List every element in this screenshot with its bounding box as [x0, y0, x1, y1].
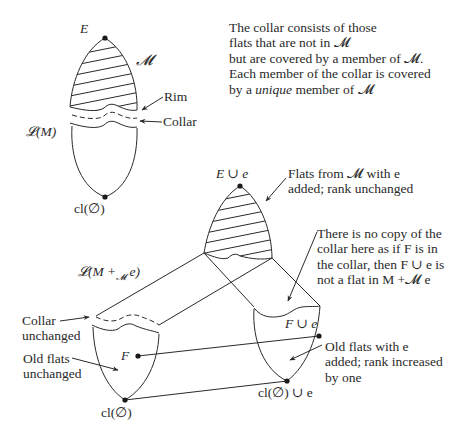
note-line: Flats from 𝓜 with e	[288, 166, 413, 181]
label-modular-cut: 𝓜	[136, 52, 153, 68]
label-E-union-e: E ∪ e	[216, 166, 248, 182]
point-F	[135, 353, 140, 358]
lattice-ext-end: e)	[126, 264, 140, 279]
note-line: unchanged	[23, 366, 81, 381]
note-line: the collar, then F ∪ e is	[317, 257, 444, 272]
lattice-ext-text: 𝓛(M +	[78, 264, 116, 279]
label-cl-empty-top: cl(∅)	[74, 201, 105, 217]
connector	[204, 253, 254, 307]
label-F: F	[121, 348, 129, 364]
label-cl-empty: cl(∅)	[101, 405, 132, 421]
explanation-line: but are covered by a member of 𝓜.	[229, 51, 431, 66]
label-lattice-M: 𝓛(M)	[26, 124, 56, 140]
note-line: added; rank unchanged	[288, 181, 413, 196]
old-flats-with-e-note: Old flats with e added; rank increased b…	[325, 339, 443, 385]
label-cl-empty-union-e: cl(∅) ∪ e	[258, 385, 313, 401]
point-E	[102, 35, 107, 40]
note-line: Collar	[22, 313, 80, 328]
flats-from-m-note: Flats from 𝓜 with e added; rank unchange…	[288, 166, 413, 197]
old-flats-unchanged-note: Old flats unchanged	[23, 351, 81, 382]
rim-arrow	[142, 97, 163, 110]
explanation-line: by a unique member of 𝓜	[229, 82, 431, 97]
explanation-line: Each member of the collar is covered	[229, 66, 431, 81]
point-cl-empty-top	[102, 194, 107, 199]
collar-unchanged-note: Collar unchanged	[22, 313, 80, 344]
top-collar-dashed	[72, 112, 137, 118]
collar-explanation: The collar consists of those flats that …	[229, 20, 431, 97]
note-line: unchanged	[22, 328, 80, 343]
note-line: by one	[325, 370, 443, 385]
label-rim: Rim	[164, 89, 187, 105]
explanation-line: flats that are not in 𝓜	[229, 35, 431, 50]
label-lattice-extension: 𝓛(M +𝓜 e)	[78, 264, 140, 285]
lattice-ext-sub: 𝓜	[116, 272, 126, 282]
explanation-text: by a	[229, 82, 255, 97]
note-line: added; rank increased	[325, 354, 443, 369]
point-E-union-e	[237, 183, 242, 188]
top-lattice-modular-cut	[60, 38, 150, 118]
note-line: Old flats with e	[325, 339, 443, 354]
flats-from-m-arrow	[266, 178, 286, 201]
point-cl-empty	[122, 397, 127, 402]
note-line: not a flat in M +𝓜 e	[317, 272, 444, 287]
connector	[159, 258, 272, 325]
no-copy-note: There is no copy of the collar here as i…	[317, 226, 444, 288]
no-copy-arrow	[288, 232, 317, 301]
note-line: There is no copy of the	[317, 226, 444, 241]
point-F-union-e	[316, 333, 321, 338]
label-collar: Collar	[163, 114, 197, 130]
explanation-text: member of 𝓜	[292, 82, 374, 97]
f-to-fe-connector	[138, 336, 319, 356]
explanation-emphasis: unique	[255, 82, 292, 97]
label-F-union-e: F ∪ e	[285, 316, 317, 332]
note-line: collar here as if F is in	[317, 241, 444, 256]
bottom-lattice-top-piece	[195, 186, 285, 265]
point-cl-empty-union-e	[284, 378, 289, 383]
explanation-line: The collar consists of those	[229, 20, 431, 35]
note-line: Old flats	[23, 351, 81, 366]
top-lattice-lower	[70, 121, 137, 197]
collar-arrow	[140, 121, 162, 122]
label-E: E	[80, 21, 88, 37]
